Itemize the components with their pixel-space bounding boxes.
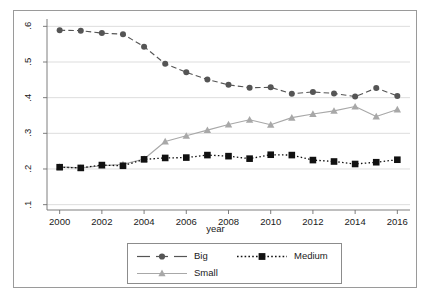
legend-label-medium: Medium	[294, 251, 328, 261]
x-axis-ticks	[60, 210, 398, 214]
legend-entry-medium: Medium	[236, 249, 328, 263]
chart-figure: .1.2.3.4.5.6 200020022004200620082010201…	[0, 0, 431, 300]
legend-key-big-icon	[136, 250, 188, 263]
legend-entry-small: Small	[136, 266, 218, 280]
legend-entry-big: Big	[136, 249, 208, 263]
chart-legend: Big Medium Small	[127, 243, 342, 284]
legend-label-big: Big	[194, 251, 208, 261]
axis-lines	[47, 19, 410, 210]
series-line-big	[57, 27, 401, 99]
gridlines	[47, 26, 410, 204]
y-axis-ticks	[43, 26, 47, 204]
y-tick-label: .1	[23, 193, 33, 215]
legend-label-small: Small	[194, 268, 218, 278]
legend-key-small-icon	[136, 267, 188, 280]
x-axis-title: year	[0, 223, 431, 234]
y-tick-label: .2	[23, 158, 33, 180]
y-tick-label: .6	[23, 15, 33, 37]
legend-key-medium-icon	[236, 250, 288, 263]
y-tick-label: .5	[23, 51, 33, 73]
y-tick-label: .4	[23, 86, 33, 108]
series-line-small	[56, 103, 401, 171]
series-line-medium	[56, 151, 400, 171]
y-tick-label: .3	[23, 122, 33, 144]
